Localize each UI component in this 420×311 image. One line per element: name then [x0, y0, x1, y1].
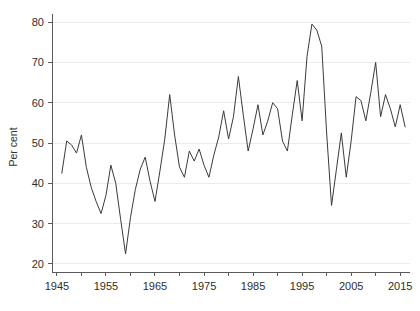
chart-container: 20304050607080 1945195519651975198519952…: [0, 0, 420, 311]
x-tick-label-2015: 2015: [388, 280, 412, 292]
y-tick-label-60: 60: [32, 97, 44, 109]
x-tick-label-1985: 1985: [241, 280, 265, 292]
y-tick-label-40: 40: [32, 177, 44, 189]
y-axis-title: Per cent: [7, 127, 19, 166]
data-series: [62, 24, 405, 254]
line-chart: 20304050607080 1945195519651975198519952…: [0, 0, 420, 311]
x-tick-label-1995: 1995: [290, 280, 314, 292]
series-line-0: [62, 24, 405, 254]
x-tick-label-1975: 1975: [192, 280, 216, 292]
x-tick-label-2005: 2005: [339, 280, 363, 292]
y-tick-label-70: 70: [32, 56, 44, 68]
x-tick-label-1955: 1955: [94, 280, 118, 292]
x-axis: 19451955196519751985199520052015: [45, 272, 413, 292]
y-tick-label-80: 80: [32, 16, 44, 28]
grid-lines: [52, 22, 410, 264]
y-axis: 20304050607080: [32, 14, 52, 272]
x-tick-label-1945: 1945: [45, 280, 69, 292]
y-tick-label-20: 20: [32, 258, 44, 270]
y-tick-label-30: 30: [32, 218, 44, 230]
y-tick-label-50: 50: [32, 137, 44, 149]
x-tick-label-1965: 1965: [143, 280, 167, 292]
